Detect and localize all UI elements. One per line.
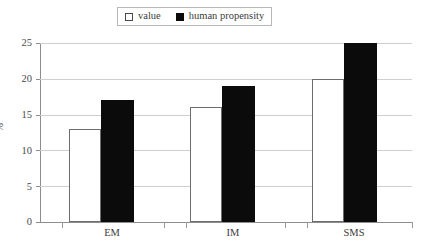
category-separator [412,222,413,228]
bar-propensity-im [222,86,255,222]
category-separator [186,222,187,228]
y-tick-label: 20 [10,74,32,85]
category-separator [285,222,286,228]
category-separator [307,222,308,228]
x-axis-label-em: EM [82,228,142,239]
y-tick-label: 0 [10,217,32,228]
y-tick-label: 15 [10,110,32,121]
y-tick-label: 5 [10,182,32,193]
bar-propensity-em [101,100,134,222]
y-tick-label: 25 [10,38,32,49]
x-axis-line [40,222,413,223]
bar-value-sms [312,79,344,222]
bar-value-im [190,107,222,222]
x-axis-label-im: IM [203,228,263,239]
category-separator [62,222,63,228]
bar-propensity-sms [344,43,377,222]
y-tick-label: 10 [10,146,32,157]
x-axis-label-sms: SMS [324,228,384,239]
bar-chart: value human propensity % 25 20 15 10 5 0 [0,0,423,246]
plot-area [40,43,412,222]
bar-value-em [69,129,101,222]
category-separator [164,222,165,228]
